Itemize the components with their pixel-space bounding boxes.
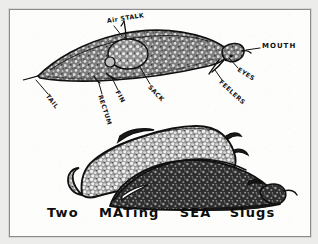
caption-word-slugs: Slugs (230, 205, 276, 220)
screenshot-canvas: Air STALK MOUTH EYES FEELERS SACK FIN RE… (0, 0, 318, 244)
caption-word-two: Two (47, 205, 79, 220)
bottom-mating-pair (68, 126, 297, 211)
caption-word-sea: SEA (180, 205, 212, 220)
drawing-caption: Two MATing SEA Slugs (47, 206, 275, 219)
framed-drawing: Air STALK MOUTH EYES FEELERS SACK FIN RE… (9, 9, 311, 237)
caption-word-mating: MATing (99, 205, 159, 220)
label-mouth: MOUTH (262, 43, 296, 50)
top-slug-figure (23, 21, 251, 83)
